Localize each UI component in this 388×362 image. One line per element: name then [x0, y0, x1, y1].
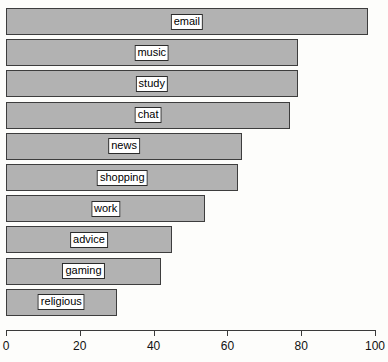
x-axis-tick-label: 80 [295, 339, 308, 353]
bar-row: email [0, 8, 388, 35]
x-axis-tick [6, 330, 7, 336]
bar-label-study: study [136, 76, 168, 92]
bar-row: religious [0, 289, 388, 316]
x-axis-tick-label: 60 [221, 339, 234, 353]
bar-label-gaming: gaming [62, 263, 104, 279]
bar-row: music [0, 39, 388, 66]
x-axis-tick [80, 330, 81, 336]
bar-label-email: email [171, 14, 203, 30]
bar-row: work [0, 195, 388, 222]
x-axis: 020406080100 [0, 330, 388, 362]
x-axis-tick [227, 330, 228, 336]
x-axis-tick-label: 40 [147, 339, 160, 353]
x-axis-line [6, 330, 375, 331]
x-axis-tick [375, 330, 376, 336]
bar-chart: emailmusicstudychatnewsshoppingworkadvic… [0, 0, 388, 362]
bar-row: shopping [0, 164, 388, 191]
bar-row: news [0, 133, 388, 160]
bar-label-work: work [91, 201, 120, 217]
bar-label-advice: advice [70, 232, 108, 248]
bar-label-music: music [134, 45, 169, 61]
x-axis-tick-label: 100 [365, 339, 385, 353]
x-axis-tick-label: 0 [3, 339, 10, 353]
bar-label-religious: religious [38, 294, 85, 310]
bar-row: study [0, 70, 388, 97]
bar-label-news: news [108, 138, 140, 154]
x-axis-tick [154, 330, 155, 336]
bar-label-shopping: shopping [97, 170, 148, 186]
plot-area: emailmusicstudychatnewsshoppingworkadvic… [0, 0, 388, 330]
bar-row: advice [0, 226, 388, 253]
bar-row: chat [0, 102, 388, 129]
bar-label-chat: chat [135, 107, 162, 123]
x-axis-tick [301, 330, 302, 336]
x-axis-tick-label: 20 [73, 339, 86, 353]
bar-row: gaming [0, 258, 388, 285]
